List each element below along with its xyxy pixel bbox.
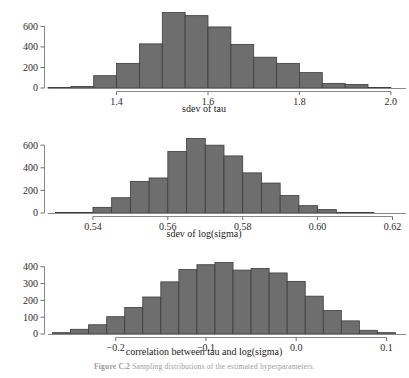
histogram-bar xyxy=(53,333,71,334)
histogram-bar xyxy=(179,270,197,334)
y-axis-3: 0100200300400 xyxy=(23,261,45,339)
y-tick-label: 400 xyxy=(23,41,38,52)
histogram-bar xyxy=(318,210,337,213)
x-tick-label: 0.60 xyxy=(309,221,327,232)
histogram-bar xyxy=(341,321,359,334)
histogram-bar xyxy=(254,57,277,88)
histogram-bar xyxy=(94,76,117,88)
histogram-bar xyxy=(359,330,377,334)
histogram-bar xyxy=(161,282,179,334)
histogram-panel-sdev-of-log-sigma: 0200400600 0.540.560.580.600.62 sdev of … xyxy=(0,125,409,250)
histogram-bar xyxy=(368,87,391,88)
histogram-bar xyxy=(305,296,323,334)
figure-caption: Figure C.2 Sampling distributions of the… xyxy=(0,362,409,378)
y-tick-label: 300 xyxy=(23,278,38,289)
bars-group-2 xyxy=(55,138,373,213)
histogram-bar xyxy=(107,317,125,334)
histogram-bar xyxy=(233,270,251,334)
histogram-bar xyxy=(208,27,231,88)
histogram-bar xyxy=(299,206,318,213)
histogram-bar xyxy=(168,151,187,213)
y-axis-2: 0200400600 xyxy=(23,140,45,219)
histogram-bar xyxy=(355,212,374,213)
histogram-bar xyxy=(287,281,305,334)
figure-caption-text: Sampling distributions of the estimated … xyxy=(132,362,315,371)
histogram-panel-correlation: 0100200300400 −0.2−0.10.00.1 correlation… xyxy=(0,250,409,360)
x-tick-label: 1.4 xyxy=(110,96,123,107)
x-axis-title-1: sdev of tau xyxy=(182,103,226,114)
histogram-bar xyxy=(71,329,89,334)
y-tick-label: 400 xyxy=(23,261,38,272)
y-tick-label: 200 xyxy=(23,185,38,196)
histogram-bar xyxy=(231,44,254,88)
histogram-bar xyxy=(224,156,243,213)
histogram-bar xyxy=(112,198,131,213)
histogram-bar xyxy=(143,297,161,334)
histogram-bar xyxy=(71,86,94,88)
y-axis-1: 0200400600 xyxy=(23,21,45,94)
histogram-bar xyxy=(55,212,74,213)
histogram-bar xyxy=(48,87,71,88)
figure-container: 0200400600 1.41.61.82.0 sdev of tau 0200… xyxy=(0,0,409,378)
histogram-bar xyxy=(89,325,107,334)
y-tick-label: 200 xyxy=(23,295,38,306)
histogram-bar xyxy=(205,145,224,213)
x-tick-label: 2.0 xyxy=(385,96,398,107)
histogram-bar xyxy=(187,138,206,213)
histogram-bar xyxy=(130,181,149,213)
x-axis-title-2: sdev of log(sigma) xyxy=(167,228,242,240)
y-tick-label: 600 xyxy=(23,21,38,32)
histogram-bar xyxy=(269,273,287,334)
y-tick-label: 0 xyxy=(33,82,38,93)
bars-group-1 xyxy=(48,13,391,88)
histogram-svg-1: 0200400600 1.41.61.82.0 sdev of tau xyxy=(0,0,409,125)
bars-group-3 xyxy=(53,263,396,334)
histogram-bar xyxy=(93,207,112,213)
x-axis-title-3: correlation between tau and log(sigma) xyxy=(126,346,283,358)
histogram-bar xyxy=(299,73,322,88)
histogram-bar xyxy=(261,183,280,213)
histogram-bar xyxy=(323,310,341,334)
y-tick-label: 100 xyxy=(23,312,38,323)
histogram-bar xyxy=(277,63,300,88)
histogram-bar xyxy=(377,333,395,334)
x-axis-1: 1.41.61.82.0 xyxy=(48,89,406,107)
histogram-bar xyxy=(162,13,185,88)
x-tick-label: 0.62 xyxy=(384,221,402,232)
x-tick-label: 0.1 xyxy=(380,342,393,353)
histogram-bar xyxy=(139,44,162,88)
figure-number: Figure C.2 xyxy=(94,362,130,371)
x-tick-label: 0.54 xyxy=(84,221,102,232)
histogram-bar xyxy=(251,268,269,334)
x-tick-label: −0.2 xyxy=(107,342,125,353)
histogram-svg-3: 0100200300400 −0.2−0.10.00.1 correlation… xyxy=(0,250,409,360)
histogram-bar xyxy=(280,195,299,213)
histogram-bar xyxy=(243,173,262,213)
histogram-svg-2: 0200400600 0.540.560.580.600.62 sdev of … xyxy=(0,125,409,250)
y-tick-label: 600 xyxy=(23,140,38,151)
x-tick-label: 0.0 xyxy=(290,342,303,353)
histogram-bar xyxy=(74,212,93,213)
histogram-bar xyxy=(322,83,345,88)
histogram-bar xyxy=(185,16,208,88)
histogram-bar xyxy=(125,307,143,334)
histogram-bar xyxy=(117,63,140,88)
y-tick-label: 400 xyxy=(23,162,38,173)
histogram-bar xyxy=(149,178,168,213)
y-tick-label: 0 xyxy=(33,328,38,339)
histogram-bar xyxy=(197,265,215,334)
histogram-panel-sdev-of-tau: 0200400600 1.41.61.82.0 sdev of tau xyxy=(0,0,409,125)
y-tick-label: 200 xyxy=(23,62,38,73)
histogram-bar xyxy=(345,84,368,88)
histogram-bar xyxy=(336,212,355,213)
y-tick-label: 0 xyxy=(33,207,38,218)
histogram-bar xyxy=(215,263,233,334)
x-tick-label: 1.8 xyxy=(293,96,306,107)
